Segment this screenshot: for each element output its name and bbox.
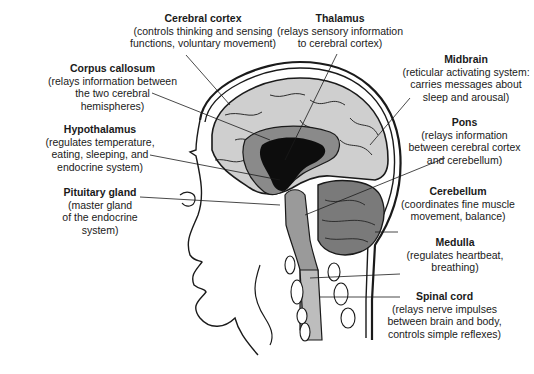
label-hypothalamus: Hypothalamus (regulates temperature, eat…	[30, 123, 170, 173]
cerebellum-region	[318, 181, 384, 255]
label-medulla: Medulla (regulates heartbeat, breathing)	[395, 236, 515, 274]
label-cerebellum: Cerebellum (coordinates fine muscle move…	[388, 185, 528, 223]
label-spinal-cord: Spinal cord (relays nerve impulses betwe…	[372, 290, 517, 340]
label-cerebral-cortex: Cerebral cortex (controls thinking and s…	[118, 12, 288, 50]
label-midbrain: Midbrain (reticular activating system: c…	[396, 53, 534, 103]
neck-front	[255, 265, 272, 345]
label-pons: Pons (relays information between cerebra…	[402, 116, 527, 166]
label-thalamus: Thalamus (relays sensory information to …	[270, 12, 410, 50]
label-corpus-callosum: Corpus callosum (relays information betw…	[40, 62, 185, 112]
label-pituitary-gland: Pituitary gland (master gland of the end…	[40, 186, 160, 236]
